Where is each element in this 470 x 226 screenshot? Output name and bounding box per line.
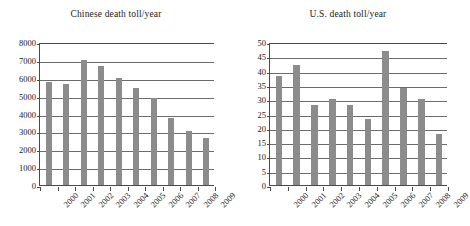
x-axis-tick <box>180 187 181 191</box>
bar <box>81 60 87 185</box>
bar <box>63 84 69 185</box>
bar <box>329 99 335 185</box>
y-tick-label: 50 <box>258 39 267 48</box>
bar <box>382 51 388 185</box>
x-tick-label: 2005 <box>149 191 167 209</box>
x-axis-tick <box>110 187 111 191</box>
bar <box>203 138 209 185</box>
y-tick-label: 10 <box>258 153 267 162</box>
x-axis-tick <box>128 187 129 191</box>
x-axis-tick <box>93 187 94 191</box>
x-tick-label: 2000 <box>62 191 80 209</box>
bar <box>98 66 104 185</box>
y-tick-label: 8000 <box>19 39 36 48</box>
bar <box>418 99 424 185</box>
bar <box>347 105 353 185</box>
y-tick-label: 2000 <box>19 146 36 155</box>
x-tick-label: 2007 <box>416 191 434 209</box>
y-tick-label: 30 <box>258 96 267 105</box>
chart-panel-us: U.S. death toll/year 0510152025303540455… <box>232 0 464 226</box>
x-tick-label: 2004 <box>132 191 150 209</box>
bar-series-us <box>270 44 447 185</box>
x-axis-tick <box>215 187 216 191</box>
y-tick-label: 6000 <box>19 75 36 84</box>
bar-series-chinese <box>40 44 214 185</box>
plot-box-chinese <box>39 43 214 186</box>
x-tick-label: 2005 <box>381 191 399 209</box>
bar <box>365 119 371 185</box>
x-axis-tick <box>430 187 431 191</box>
bar <box>311 105 317 185</box>
x-axis-tick <box>395 187 396 191</box>
x-tick-label: 2009 <box>452 191 470 209</box>
x-tick-label: 2003 <box>345 191 363 209</box>
x-tick-label: 2004 <box>363 191 381 209</box>
x-tick-label: 2006 <box>399 191 417 209</box>
x-axis-tick <box>198 187 199 191</box>
bar <box>116 78 122 185</box>
chart-panel-chinese: Chinese death toll/year 0100020003000400… <box>0 0 232 226</box>
x-axis-tick <box>163 187 164 191</box>
x-axis-tick <box>288 187 289 191</box>
plot-box-us <box>269 43 447 186</box>
bar <box>168 118 174 185</box>
x-axis-tick <box>341 187 342 191</box>
plot-area-us: 0510152025303540455020002001200220032004… <box>232 0 464 226</box>
x-tick-label: 2002 <box>327 191 345 209</box>
y-tick-label: 0 <box>32 182 36 191</box>
x-tick-label: 2000 <box>292 191 310 209</box>
x-axis-tick <box>306 187 307 191</box>
bar <box>133 88 139 185</box>
x-tick-label: 2001 <box>310 191 328 209</box>
y-tick-label: 40 <box>258 67 267 76</box>
bar <box>186 131 192 185</box>
bar <box>400 88 406 185</box>
x-tick-label: 2006 <box>167 191 185 209</box>
y-tick-label: 35 <box>258 82 267 91</box>
bar <box>151 98 157 185</box>
plot-area-chinese: 0100020003000400050006000700080002000200… <box>0 0 232 226</box>
x-tick-label: 2007 <box>184 191 202 209</box>
y-tick-label: 4000 <box>19 110 36 119</box>
y-tick-label: 15 <box>258 139 267 148</box>
y-tick-label: 0 <box>262 182 266 191</box>
x-tick-label: 2008 <box>434 191 452 209</box>
x-axis-tick <box>40 187 41 191</box>
bar <box>46 82 52 185</box>
bar <box>436 134 442 185</box>
y-tick-label: 25 <box>258 110 267 119</box>
y-tick-label: 45 <box>258 53 267 62</box>
y-tick-label: 7000 <box>19 57 36 66</box>
x-axis-tick <box>412 187 413 191</box>
x-axis-tick <box>323 187 324 191</box>
x-axis-tick <box>58 187 59 191</box>
x-axis-tick <box>145 187 146 191</box>
x-axis-tick <box>377 187 378 191</box>
bar <box>293 65 299 185</box>
y-tick-label: 3000 <box>19 128 36 137</box>
y-tick-label: 20 <box>258 125 267 134</box>
x-axis-tick <box>359 187 360 191</box>
x-tick-label: 2001 <box>79 191 97 209</box>
x-axis-tick <box>75 187 76 191</box>
x-tick-label: 2003 <box>114 191 132 209</box>
x-tick-label: 2008 <box>202 191 220 209</box>
y-tick-label: 5000 <box>19 92 36 101</box>
y-tick-label: 1000 <box>19 164 36 173</box>
x-axis-tick <box>448 187 449 191</box>
x-axis-tick <box>270 187 271 191</box>
y-tick-label: 5 <box>262 167 266 176</box>
y-axis-labels-chinese: 010002000300040005000600070008000 <box>6 43 36 186</box>
bar <box>276 76 282 185</box>
x-tick-label: 2002 <box>97 191 115 209</box>
y-axis-labels-us: 05101520253035404550 <box>236 43 266 186</box>
